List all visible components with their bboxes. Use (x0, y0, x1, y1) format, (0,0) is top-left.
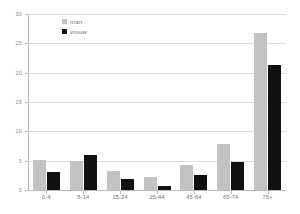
legend-swatch-vrouw-icon (62, 29, 67, 34)
y-axis-tick-label: 20 (0, 70, 22, 76)
bar-man-25-44 (144, 177, 157, 190)
bar-vrouw-5-14 (84, 155, 97, 190)
y-axis-tick-mark (25, 73, 28, 74)
bar-man-65-74 (217, 144, 230, 190)
bar-vrouw-75+ (268, 65, 281, 190)
bar-vrouw-45-64 (194, 175, 207, 190)
bar-vrouw-15-24 (121, 179, 134, 190)
y-axis-tick-label: 0 (0, 187, 22, 193)
y-axis-tick-mark (25, 161, 28, 162)
legend-label-man: man (70, 19, 82, 25)
x-axis-tick-label: 5-14 (65, 194, 102, 200)
y-axis-tick-label: 25 (0, 40, 22, 46)
x-axis-tick-label: 45-64 (175, 194, 212, 200)
bar-group (65, 14, 102, 190)
bar-man-45-64 (180, 165, 193, 190)
y-axis-tick-mark (25, 14, 28, 15)
x-axis-tick-label: 25-44 (139, 194, 176, 200)
bar-group (212, 14, 249, 190)
legend-label-vrouw: vrouw (70, 29, 87, 35)
y-axis-tick-label: 5 (0, 158, 22, 164)
bar-vrouw-25-44 (158, 186, 171, 190)
legend-swatch-man-icon (62, 19, 67, 24)
bar-chart: 051015202530 0-45-1415-2425-4445-6465-74… (0, 0, 300, 214)
bar-group (102, 14, 139, 190)
legend-item-man: man (62, 18, 87, 25)
chart-legend: man vrouw (62, 18, 87, 38)
bar-group (28, 14, 65, 190)
bar-vrouw-0-4 (47, 172, 60, 190)
y-axis-tick-mark (25, 43, 28, 44)
y-axis-tick-mark (25, 131, 28, 132)
y-axis-tick-label: 30 (0, 11, 22, 17)
y-axis-tick-label: 15 (0, 99, 22, 105)
y-axis-tick-mark (25, 190, 28, 191)
bar-man-5-14 (70, 161, 83, 190)
bar-group (175, 14, 212, 190)
x-axis-tick-label: 15-24 (102, 194, 139, 200)
x-axis-tick-label: 65-74 (212, 194, 249, 200)
bar-man-15-24 (107, 171, 120, 190)
x-axis-tick-labels: 0-45-1415-2425-4445-6465-7475+ (28, 194, 286, 200)
x-axis-tick-label: 0-4 (28, 194, 65, 200)
y-axis-tick-mark (25, 102, 28, 103)
bar-vrouw-65-74 (231, 162, 244, 190)
bar-groups (28, 14, 286, 190)
bar-group (249, 14, 286, 190)
y-axis-tick-label: 10 (0, 128, 22, 134)
bar-man-0-4 (33, 160, 46, 190)
x-axis-tick-label: 75+ (249, 194, 286, 200)
bar-group (139, 14, 176, 190)
legend-item-vrouw: vrouw (62, 28, 87, 35)
bar-man-75+ (254, 33, 267, 190)
plot-area (28, 14, 286, 190)
